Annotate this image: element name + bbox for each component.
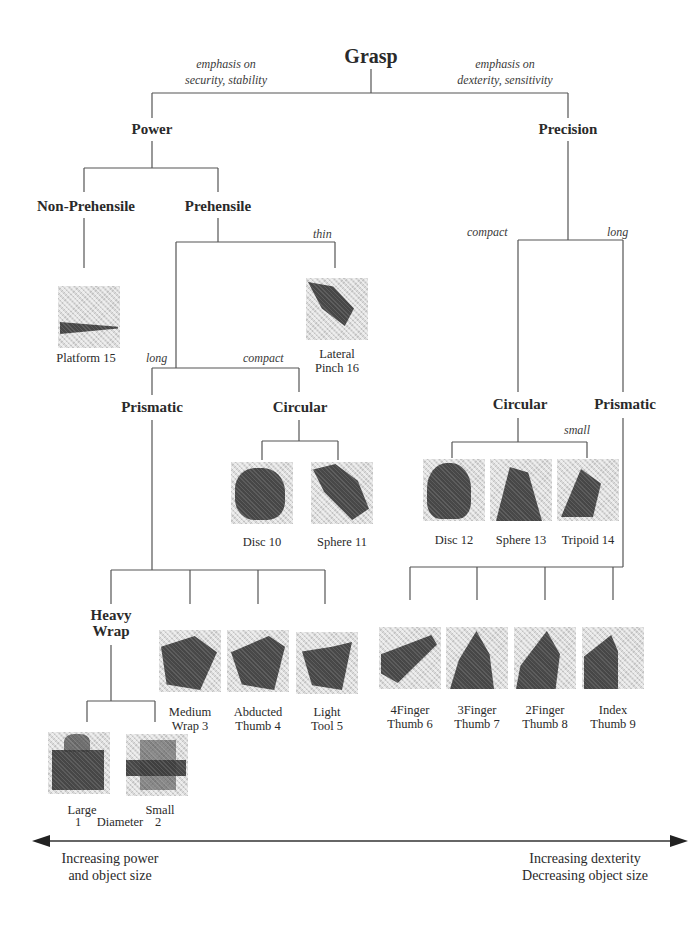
annotation-security-line1: emphasis on xyxy=(171,58,281,71)
annotation-dexterity-line2: dexterity, sensitivity xyxy=(430,74,580,87)
grasp-label-4finger-line2: Thumb 6 xyxy=(387,718,432,731)
grasp-label-light-line2: Tool 5 xyxy=(311,720,343,733)
grasp-label-4finger-line1: 4Finger xyxy=(391,704,430,717)
grasp-label-lateral-line1: Lateral xyxy=(319,348,354,361)
edge-label-thin: thin xyxy=(313,228,332,241)
grasp-image-sphere-11 xyxy=(311,462,373,524)
grasp-label-abducted-line1: Abducted xyxy=(234,706,283,719)
grasp-image-index-thumb xyxy=(582,627,644,689)
annotation-dexterity-line1: emphasis on xyxy=(450,58,560,71)
node-prehensile: Prehensile xyxy=(185,199,251,215)
grasp-image-3finger-thumb xyxy=(446,627,508,689)
grasp-label-light-line1: Light xyxy=(313,706,340,719)
grasp-label-index-line1: Index xyxy=(599,704,627,717)
grasp-image-4finger-thumb xyxy=(379,627,441,689)
edge-label-compact: compact xyxy=(243,352,284,365)
diameter-label: Diameter xyxy=(97,816,144,829)
node-power: Power xyxy=(132,122,173,138)
grasp-image-tripoid-14 xyxy=(557,459,619,521)
axis-right-line1: Increasing dexterity xyxy=(529,852,641,867)
grasp-label-lateral-line2: Pinch 16 xyxy=(315,362,359,375)
grasp-image-large-diameter xyxy=(48,732,110,794)
node-precision-circular: Circular xyxy=(493,397,548,413)
grasp-number-2: 2 xyxy=(155,816,161,829)
edge-label-precision-long: long xyxy=(607,226,628,239)
grasp-label-platform-15: Platform 15 xyxy=(56,352,115,365)
grasp-label-sphere-13: Sphere 13 xyxy=(496,534,546,547)
axis-left-line2: and object size xyxy=(68,869,151,884)
grasp-label-sphere-11: Sphere 11 xyxy=(317,536,367,549)
grasp-label-3finger-line1: 3Finger xyxy=(458,704,497,717)
grasp-image-platform xyxy=(58,286,120,348)
grasp-label-medium-line2: Wrap 3 xyxy=(172,720,209,733)
grasp-label-disc-12: Disc 12 xyxy=(435,534,474,547)
node-non-prehensile: Non-Prehensile xyxy=(37,199,135,215)
axis-left-line1: Increasing power xyxy=(62,852,159,867)
grasp-image-disc-10 xyxy=(231,462,293,524)
grasp-label-3finger-line2: Thumb 7 xyxy=(454,718,499,731)
edge-label-small: small xyxy=(564,424,590,437)
node-precision-prismatic: Prismatic xyxy=(594,397,656,413)
grasp-label-2finger-line2: Thumb 8 xyxy=(522,718,567,731)
axis-right-line2: Decreasing object size xyxy=(522,869,648,884)
node-power-circular: Circular xyxy=(273,400,328,416)
grasp-label-medium-line1: Medium xyxy=(169,706,211,719)
node-precision: Precision xyxy=(539,122,598,138)
grasp-label-disc-10: Disc 10 xyxy=(243,536,282,549)
grasp-image-2finger-thumb xyxy=(514,627,576,689)
annotation-security-line2: security, stability xyxy=(151,74,301,87)
grasp-image-sphere-13 xyxy=(490,459,552,521)
grasp-image-lateral-pinch xyxy=(306,278,368,340)
root-node-grasp: Grasp xyxy=(344,46,397,67)
grasp-label-abducted-line2: Thumb 4 xyxy=(235,720,280,733)
grasp-label-2finger-line1: 2Finger xyxy=(526,704,565,717)
node-power-prismatic: Prismatic xyxy=(121,400,183,416)
grasp-label-large: Large xyxy=(68,804,97,817)
grasp-image-light-tool xyxy=(296,632,358,694)
edge-label-long: long xyxy=(146,352,167,365)
grasp-label-index-line2: Thumb 9 xyxy=(590,718,635,731)
grasp-number-1: 1 xyxy=(75,816,81,829)
grasp-image-medium-wrap xyxy=(159,630,221,692)
node-heavy-wrap-line1: Heavy xyxy=(91,608,132,624)
node-heavy-wrap-line2: Wrap xyxy=(92,624,129,640)
grasp-image-disc-12 xyxy=(423,459,485,521)
grasp-image-abducted-thumb xyxy=(227,630,289,692)
grasp-label-tripoid-14: Tripoid 14 xyxy=(562,534,615,547)
grasp-image-small-diameter xyxy=(126,734,188,796)
edge-label-precision-compact: compact xyxy=(467,226,508,239)
